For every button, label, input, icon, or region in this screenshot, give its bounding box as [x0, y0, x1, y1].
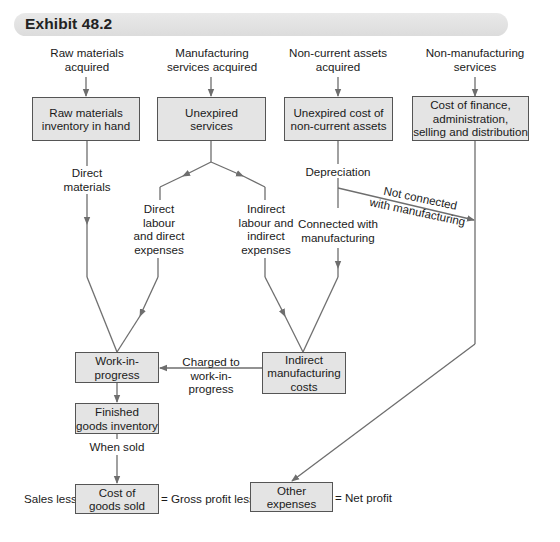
flow-connectors — [0, 0, 560, 542]
box-work-in-progress: Work-in- progress — [75, 352, 159, 383]
box-indirect-manufacturing-costs: Indirect manufacturing costs — [262, 352, 346, 394]
text-sales-less: Sales less — [24, 492, 74, 506]
box-other-expenses: Other expenses — [250, 482, 333, 512]
box-raw-materials-inventory: Raw materials inventory in hand — [32, 97, 140, 141]
box-unexpired-services: Unexpired services — [157, 97, 266, 141]
label-connected-with-manufacturing: Connected with manufacturing — [296, 217, 380, 244]
text-gross-profit-less: = Gross profit less — [161, 492, 249, 506]
box-cost-of-finance: Cost of finance, administration, selling… — [412, 96, 529, 141]
label-indirect-labour: Indirect labour and indirect expenses — [230, 202, 302, 256]
label-depreciation: Depreciation — [300, 165, 376, 179]
text-net-profit: = Net profit — [335, 491, 395, 505]
label-direct-materials: Direct materials — [56, 166, 118, 193]
label-direct-labour: Direct labour and direct expenses — [128, 202, 190, 256]
source-non-manufacturing-services: Non-manufacturing services — [420, 46, 530, 73]
source-manufacturing-services: Manufacturing services acquired — [160, 46, 264, 73]
source-non-current-assets: Non-current assets acquired — [281, 46, 395, 73]
box-unexpired-cost-assets: Unexpired cost of non-current assets — [284, 97, 393, 141]
source-raw-materials: Raw materials acquired — [46, 46, 128, 73]
box-cost-of-goods-sold: Cost of goods sold — [75, 484, 159, 514]
label-charged-to-wip: Charged to work-in-progress — [168, 355, 254, 396]
label-when-sold: When sold — [82, 440, 152, 454]
box-finished-goods-inventory: Finished goods inventory — [75, 403, 159, 434]
